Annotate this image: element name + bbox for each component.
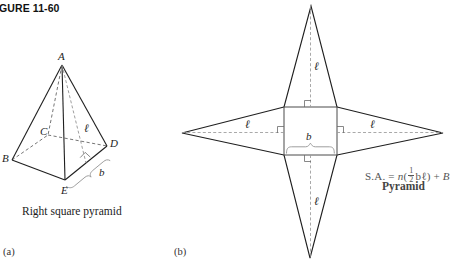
net-base-brace (287, 143, 335, 153)
base-edge-label-a: b (99, 167, 105, 178)
base-edge-CD-hidden (48, 135, 107, 146)
pyramid-net-group (182, 6, 443, 258)
pyramid-solid-group (12, 65, 110, 188)
part-label-b: (b) (174, 246, 186, 257)
part-label-a: (a) (3, 246, 15, 257)
part-a-caption: Right square pyramid (22, 205, 122, 217)
right-angle-marker-left (278, 127, 285, 134)
lateral-edge-AB (12, 65, 62, 160)
net-base-edge-label: b (306, 131, 312, 142)
vertex-label-D: D (110, 138, 118, 149)
net-slant-height-label-top: ℓ (314, 61, 319, 73)
net-slant-height-label-left: ℓ (245, 119, 250, 131)
lateral-edge-AE (62, 65, 65, 180)
slant-height-label-a: ℓ (84, 123, 89, 135)
vertex-label-B: B (2, 153, 9, 164)
base-edge-BC-hidden (12, 135, 48, 160)
net-triangle-bottom (284, 155, 337, 258)
net-triangle-right (337, 107, 443, 155)
right-angle-marker-bottom (305, 155, 312, 162)
vertex-label-C: C (40, 126, 47, 137)
vertex-label-E: E (61, 185, 68, 196)
net-slant-height-label-bottom: ℓ (314, 196, 319, 208)
formula-suffix: + (431, 170, 443, 182)
net-triangle-left (182, 107, 284, 155)
right-angle-marker-top (305, 101, 312, 108)
formula-shape-name: Pyramid (382, 180, 425, 192)
formula-base-area: B (443, 170, 450, 182)
vertex-label-A: A (58, 51, 65, 62)
base-edge-BE (12, 160, 65, 180)
net-slant-height-label-right: ℓ (370, 119, 375, 131)
figure-canvas (0, 0, 469, 263)
lateral-edge-AC-hidden (48, 65, 62, 135)
right-angle-marker-a (80, 152, 90, 157)
slant-height-line (62, 65, 86, 163)
right-angle-marker-right (337, 127, 344, 134)
